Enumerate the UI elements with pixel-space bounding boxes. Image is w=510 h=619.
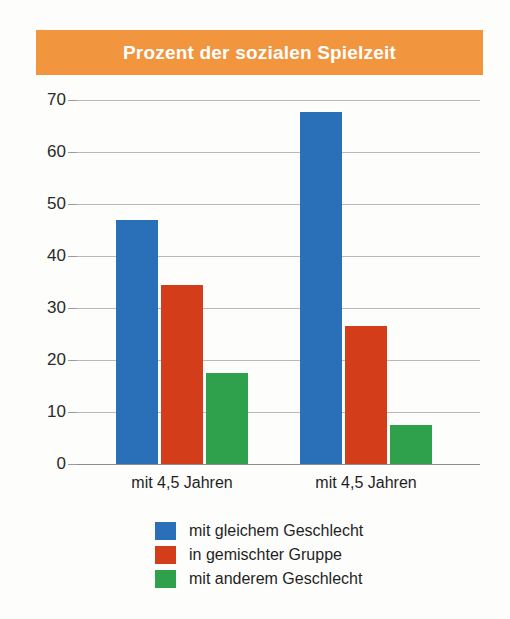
legend-swatch-icon: [155, 570, 176, 588]
y-axis-tick-label: 20: [47, 350, 66, 370]
legend-item-label: mit gleichem Geschlecht: [189, 522, 363, 540]
chart-legend: mit gleichem Geschlechtin gemischter Gru…: [155, 521, 363, 589]
gridline: [77, 100, 480, 101]
y-axis-tick-label: 50: [47, 194, 66, 214]
chart-title-banner: Prozent der sozialen Spielzeit: [36, 30, 483, 75]
chart-figure: Prozent der sozialen Spielzeit 010203040…: [0, 0, 510, 619]
page-title: Prozent der sozialen Spielzeit: [123, 42, 396, 64]
bar: [161, 285, 203, 464]
legend-item[interactable]: mit gleichem Geschlecht: [155, 521, 363, 541]
bar: [300, 112, 342, 464]
legend-item-label: mit anderem Geschlecht: [189, 570, 362, 588]
bar: [206, 373, 248, 464]
legend-swatch-icon: [155, 546, 176, 564]
gridline: [77, 204, 480, 205]
y-axis-tick-label: 40: [47, 246, 66, 266]
legend-item[interactable]: mit anderem Geschlecht: [155, 569, 363, 589]
bar: [116, 220, 158, 464]
plot-area: [77, 100, 480, 464]
bar: [390, 425, 432, 464]
x-axis-category-label: mit 4,5 Jahren: [315, 474, 416, 492]
x-axis-category-label: mit 4,5 Jahren: [131, 474, 232, 492]
gridline: [77, 464, 480, 465]
y-axis-tick-label: 30: [47, 298, 66, 318]
legend-swatch-icon: [155, 522, 176, 540]
y-axis-tick-label: 0: [57, 454, 66, 474]
legend-item-label: in gemischter Gruppe: [189, 546, 342, 564]
bar: [345, 326, 387, 464]
gridline: [77, 152, 480, 153]
y-axis-tick-label: 70: [47, 90, 66, 110]
y-axis-tick-label: 10: [47, 402, 66, 422]
y-axis-tick-label: 60: [47, 142, 66, 162]
legend-item[interactable]: in gemischter Gruppe: [155, 545, 363, 565]
y-axis-tick-labels: 010203040506070: [18, 100, 66, 464]
